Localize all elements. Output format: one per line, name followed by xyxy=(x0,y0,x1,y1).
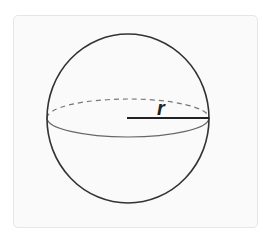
equator-front xyxy=(47,118,209,137)
sphere-diagram: r xyxy=(0,0,272,240)
equator-back-dashed xyxy=(47,99,209,118)
radius-label: r xyxy=(157,97,166,119)
